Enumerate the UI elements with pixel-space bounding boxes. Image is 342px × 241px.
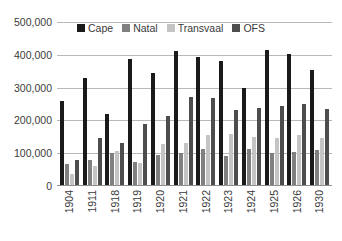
y-axis-tick-label: 400,000 (14, 49, 52, 61)
legend-swatch-icon (77, 24, 85, 32)
legend-label: Transvaal (178, 23, 224, 34)
x-axis-tick: 1921 (172, 188, 195, 241)
bar[interactable] (224, 156, 228, 186)
bar-groups (57, 22, 332, 186)
y-axis-tick-label: 300,000 (14, 82, 52, 94)
bar[interactable] (270, 153, 274, 186)
x-axis-tick-label: 1919 (132, 190, 143, 213)
bar[interactable] (93, 166, 97, 186)
legend-entry[interactable]: OFS (232, 23, 265, 34)
legend-entry[interactable]: Transvaal (167, 23, 224, 34)
bar[interactable] (115, 151, 119, 186)
bar[interactable] (65, 164, 69, 186)
bar-group (263, 22, 286, 186)
bar-chart: CapeNatalTransvaalOFS 500,000400,000300,… (0, 0, 342, 241)
x-axis-tick-label: 1926 (292, 190, 303, 213)
bar[interactable] (292, 152, 296, 186)
bar[interactable] (83, 78, 87, 186)
bar[interactable] (310, 70, 314, 186)
y-axis-tick-label: 200,000 (14, 114, 52, 126)
bar[interactable] (161, 144, 165, 186)
bar-group (149, 22, 172, 186)
bar-group (172, 22, 195, 186)
x-axis-tick-label: 1920 (155, 190, 166, 213)
y-axis-tick-label: 100,000 (14, 147, 52, 159)
legend-label: OFS (243, 23, 265, 34)
bar[interactable] (189, 97, 193, 186)
bar[interactable] (133, 162, 137, 186)
bar[interactable] (265, 50, 269, 186)
bar[interactable] (320, 138, 324, 186)
x-axis-tick: 1925 (263, 188, 286, 241)
bar-group (286, 22, 309, 186)
bar-group (58, 22, 81, 186)
bar-group (240, 22, 263, 186)
x-axis-tick-label: 1930 (314, 190, 325, 213)
bar[interactable] (138, 163, 142, 186)
bar[interactable] (242, 88, 246, 186)
bar[interactable] (252, 137, 256, 186)
bar[interactable] (287, 54, 291, 186)
bar[interactable] (75, 160, 79, 186)
x-axis-tick: 1919 (126, 188, 149, 241)
bar[interactable] (179, 153, 183, 186)
bar[interactable] (156, 155, 160, 186)
x-axis-tick-label: 1904 (64, 190, 75, 213)
x-axis-tick: 1920 (149, 188, 172, 241)
x-axis-tick: 1911 (81, 188, 104, 241)
x-axis-line (57, 185, 332, 186)
bar[interactable] (201, 149, 205, 186)
bar-group (195, 22, 218, 186)
x-axis-tick-label: 1918 (110, 190, 121, 213)
bar[interactable] (325, 109, 329, 186)
x-axis-tick-label: 1925 (269, 190, 280, 213)
x-axis-tick: 1922 (195, 188, 218, 241)
bar[interactable] (247, 149, 251, 186)
x-axis-tick: 1904 (58, 188, 81, 241)
bar[interactable] (196, 57, 200, 186)
bar-group (104, 22, 127, 186)
x-axis-tick-label: 1922 (201, 190, 212, 213)
bar-group (217, 22, 240, 186)
legend-entry[interactable]: Natal (122, 23, 158, 34)
x-axis-tick: 1926 (286, 188, 309, 241)
x-axis: 1904191119181919192019211922192319241925… (57, 188, 332, 241)
bar[interactable] (143, 124, 147, 186)
x-axis-tick-label: 1924 (246, 190, 257, 213)
bar[interactable] (128, 59, 132, 186)
bar[interactable] (174, 51, 178, 186)
x-axis-tick-label: 1921 (178, 190, 189, 213)
bar[interactable] (297, 135, 301, 186)
y-axis-tick-label: 0 (46, 180, 52, 192)
bar[interactable] (98, 138, 102, 186)
bar[interactable] (275, 138, 279, 186)
bar[interactable] (219, 61, 223, 186)
x-axis-tick-label: 1923 (223, 190, 234, 213)
bar[interactable] (302, 104, 306, 186)
legend-swatch-icon (122, 24, 130, 32)
bar[interactable] (206, 135, 210, 186)
bar[interactable] (60, 101, 64, 186)
bar-group (308, 22, 331, 186)
x-axis-tick: 1924 (240, 188, 263, 241)
bar[interactable] (88, 160, 92, 186)
bar[interactable] (184, 143, 188, 186)
plot-area (57, 22, 332, 186)
bar[interactable] (229, 134, 233, 186)
legend-swatch-icon (232, 24, 240, 32)
legend-entry[interactable]: Cape (77, 23, 113, 34)
legend-label: Natal (133, 23, 158, 34)
bar-group (126, 22, 149, 186)
bar[interactable] (257, 108, 261, 186)
bar[interactable] (151, 73, 155, 186)
bar[interactable] (110, 153, 114, 186)
bar[interactable] (120, 143, 124, 186)
bar[interactable] (105, 114, 109, 186)
bar[interactable] (166, 116, 170, 186)
bar-group (81, 22, 104, 186)
bar[interactable] (280, 106, 284, 186)
bar[interactable] (234, 110, 238, 186)
bar[interactable] (315, 150, 319, 186)
x-axis-tick-label: 1911 (87, 190, 98, 213)
bar[interactable] (211, 98, 215, 186)
